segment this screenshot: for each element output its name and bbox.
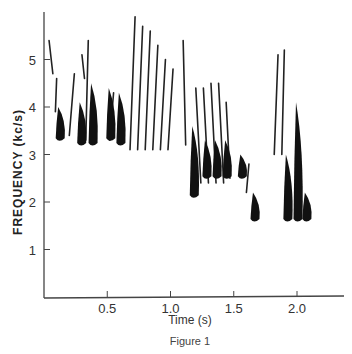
dense-note bbox=[77, 102, 86, 145]
dense-note bbox=[89, 83, 98, 145]
figure-caption: Figure 1 bbox=[150, 335, 230, 347]
x-axis-label: Time (s) bbox=[150, 313, 230, 327]
y-tick-label: 5 bbox=[29, 53, 36, 68]
frequency-sweep bbox=[168, 69, 173, 150]
y-tick-label: 4 bbox=[29, 100, 36, 115]
frequency-sweep bbox=[82, 55, 85, 79]
y-tick-label: 2 bbox=[29, 195, 36, 210]
frequency-sweep bbox=[86, 41, 89, 141]
dense-note bbox=[202, 140, 211, 179]
frequency-sweep bbox=[69, 74, 74, 136]
dense-note bbox=[283, 155, 292, 222]
y-axis-label: FREQUENCY (kc/s) bbox=[11, 102, 25, 242]
frequency-sweep bbox=[153, 45, 158, 150]
frequency-sweep bbox=[274, 55, 278, 155]
dense-note bbox=[223, 140, 232, 179]
frequency-sweep bbox=[246, 164, 249, 193]
dense-note bbox=[302, 193, 311, 222]
dense-note bbox=[106, 88, 115, 141]
frequency-sweep bbox=[183, 41, 186, 146]
dense-note bbox=[56, 107, 65, 141]
y-tick-label: 1 bbox=[29, 243, 36, 258]
x-tick-label: 0.5 bbox=[98, 301, 116, 316]
dense-note bbox=[116, 93, 125, 146]
dense-note bbox=[294, 102, 303, 221]
spectrogram-marks bbox=[49, 17, 312, 222]
y-ticks: 12345 bbox=[29, 53, 50, 258]
spectrogram-chart: 12345 0.51.01.52.0 bbox=[0, 0, 352, 354]
dense-note bbox=[250, 193, 259, 222]
frequency-sweep bbox=[160, 60, 165, 150]
frequency-sweep bbox=[49, 41, 53, 74]
frequency-sweep bbox=[145, 31, 150, 150]
dense-note bbox=[238, 155, 247, 179]
y-tick-label: 3 bbox=[29, 148, 36, 163]
x-tick-label: 2.0 bbox=[288, 301, 306, 316]
frequency-sweep bbox=[55, 79, 56, 112]
frequency-sweep bbox=[130, 17, 135, 150]
frequency-sweep bbox=[282, 50, 285, 155]
frequency-sweep bbox=[138, 26, 143, 150]
